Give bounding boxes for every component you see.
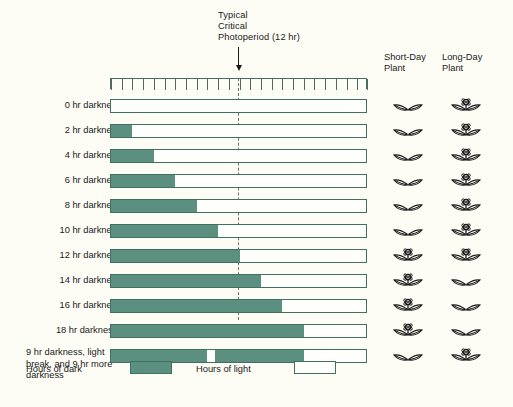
short-day-vegetative-plant-icon <box>383 146 433 171</box>
short-day-vegetative-plant-icon <box>383 196 433 221</box>
short-day-header-line-2: Plant <box>384 63 426 74</box>
long-day-flowering-plant-icon <box>441 171 491 196</box>
row-label: 8 hr darkness <box>0 200 121 212</box>
photoperiod-bar <box>110 324 367 338</box>
long-day-flowering-plant-icon <box>441 121 491 146</box>
axis-tick <box>261 79 262 90</box>
row-label: 2 hr darkness <box>0 125 121 137</box>
axis-tick <box>154 79 155 90</box>
photoperiod-bar <box>110 124 367 138</box>
photoperiod-bar <box>110 224 367 238</box>
dark-segment <box>111 300 282 312</box>
photoperiod-bar <box>110 299 367 313</box>
short-day-header-line-1: Short-Day <box>384 52 426 63</box>
long-day-flowering-plant-icon <box>441 196 491 221</box>
photoperiod-bar <box>110 149 367 163</box>
row-label: 6 hr darkness <box>0 175 121 187</box>
axis-tick <box>175 79 176 90</box>
row-label: 16 hr darkness <box>0 300 121 312</box>
photoperiod-bar <box>110 174 367 188</box>
dark-segment <box>111 125 132 137</box>
short-day-flowering-plant-icon <box>383 271 433 296</box>
dark-segment <box>111 225 218 237</box>
short-day-flowering-plant-icon <box>383 246 433 271</box>
short-day-vegetative-plant-icon <box>383 171 433 196</box>
critical-photoperiod-annotation: Typical Critical Photoperiod (12 hr) <box>218 10 300 44</box>
legend-swatch-light <box>294 361 336 374</box>
treatment-row: 16 hr darkness <box>0 296 513 321</box>
axis-tick <box>325 79 326 90</box>
long-day-flowering-plant-icon <box>441 146 491 171</box>
axis-tick <box>197 79 198 90</box>
axis-tick <box>132 79 133 90</box>
photoperiod-bar <box>110 99 367 113</box>
photoperiod-bar <box>110 249 367 263</box>
axis-tick <box>367 79 368 90</box>
dark-segment <box>111 275 261 287</box>
row-label: 14 hr darkness <box>0 275 121 287</box>
treatment-row: 4 hr darkness <box>0 146 513 171</box>
treatment-row: 0 hr darkness <box>0 96 513 121</box>
long-day-flowering-plant-icon <box>441 246 491 271</box>
long-day-vegetative-plant-icon <box>441 271 491 296</box>
photoperiod-bar <box>110 199 367 213</box>
treatment-row: 14 hr darkness <box>0 271 513 296</box>
axis-tick <box>111 79 112 90</box>
annotation-line-2: Critical <box>218 21 300 32</box>
axis-tick <box>347 79 348 90</box>
treatment-row: 12 hr darkness <box>0 246 513 271</box>
axis-tick <box>165 79 166 90</box>
treatment-rows: 0 hr darkness2 hr darkness4 hr darkness6… <box>0 96 513 371</box>
row-label: 4 hr darkness <box>0 150 121 162</box>
axis-tick <box>293 79 294 90</box>
treatment-row: 2 hr darkness <box>0 121 513 146</box>
axis-tick <box>143 79 144 90</box>
dark-segment <box>111 150 154 162</box>
legend-label-dark: Hours of dark <box>26 364 82 374</box>
chart-legend: Hours of dark Hours of light <box>0 360 513 384</box>
axis-tick <box>186 79 187 90</box>
axis-tick <box>240 79 241 90</box>
long-day-vegetative-plant-icon <box>441 296 491 321</box>
short-day-flowering-plant-icon <box>383 321 433 346</box>
dark-segment <box>111 175 175 187</box>
treatment-row: 18 hr darkness* <box>0 321 513 346</box>
legend-label-light: Hours of light <box>196 364 251 374</box>
dark-segment <box>111 200 197 212</box>
axis-tick <box>314 79 315 90</box>
axis-tick <box>272 79 273 90</box>
photoperiod-bar <box>110 274 367 288</box>
short-day-vegetative-plant-icon <box>383 221 433 246</box>
axis-tick <box>207 79 208 90</box>
axis-tick <box>250 79 251 90</box>
column-header-short-day: Short-Day Plant <box>384 52 426 74</box>
axis-tick <box>282 79 283 90</box>
long-day-header-line-1: Long-Day <box>442 52 482 63</box>
axis-tick <box>229 79 230 90</box>
treatment-row: 10 hr darkness <box>0 221 513 246</box>
treatment-row: 6 hr darkness <box>0 171 513 196</box>
row-label: 12 hr darkness <box>0 250 121 262</box>
row-label: 10 hr darkness <box>0 225 121 237</box>
long-day-header-line-2: Plant <box>442 63 482 74</box>
axis-tick <box>336 79 337 90</box>
short-day-vegetative-plant-icon <box>383 121 433 146</box>
down-arrow-icon <box>236 47 241 73</box>
row-label: 0 hr darkness <box>0 100 121 112</box>
axis-tick <box>304 79 305 90</box>
dark-segment <box>111 325 304 337</box>
axis-tick <box>357 79 358 90</box>
long-day-vegetative-plant-icon <box>441 321 491 346</box>
axis-tick <box>218 79 219 90</box>
axis-tick <box>122 79 123 90</box>
row-label: 18 hr darkness* <box>0 325 121 337</box>
long-day-flowering-plant-icon <box>441 96 491 121</box>
annotation-line-1: Typical <box>218 10 300 21</box>
short-day-vegetative-plant-icon <box>383 96 433 121</box>
long-day-flowering-plant-icon <box>441 221 491 246</box>
annotation-line-3: Photoperiod (12 hr) <box>218 32 300 43</box>
photoperiodism-diagram: Typical Critical Photoperiod (12 hr) Sho… <box>0 0 513 407</box>
column-header-long-day: Long-Day Plant <box>442 52 482 74</box>
short-day-flowering-plant-icon <box>383 296 433 321</box>
legend-swatch-dark <box>130 361 172 374</box>
